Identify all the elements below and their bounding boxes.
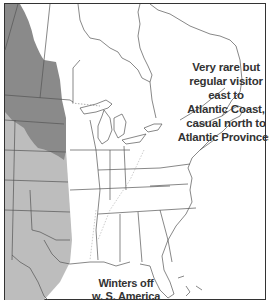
annotation-line: casual north to	[176, 116, 269, 130]
vagrant-route-line	[72, 103, 100, 106]
annotation-line: w. S. America	[66, 290, 186, 303]
vagrant-route-line	[98, 150, 144, 240]
vagrant-route-line	[90, 210, 96, 260]
annotation-northeast-vagrancy: Very rare but regular visitor east to At…	[176, 60, 269, 144]
annotation-line: Atlantic Provinces	[176, 130, 269, 144]
annotation-line: east to	[176, 88, 269, 102]
annotation-line: regular visitor	[176, 74, 269, 88]
range-map	[0, 0, 269, 306]
annotation-line: Atlantic Coast,	[176, 102, 269, 116]
annotation-line: Very rare but	[176, 60, 269, 74]
annotation-winter-range: Winters off w. S. America	[66, 277, 186, 303]
annotation-line: Winters off	[66, 277, 186, 290]
